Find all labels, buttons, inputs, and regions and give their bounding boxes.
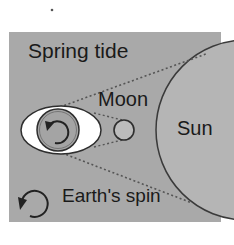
earth-spin-label: Earth's spin xyxy=(62,185,161,206)
moon-label: Moon xyxy=(98,88,148,110)
earth-body xyxy=(37,109,79,151)
moon-body xyxy=(114,120,134,140)
sun-label: Sun xyxy=(177,117,213,139)
diagram-title: Spring tide xyxy=(28,39,128,62)
stray-mark xyxy=(51,9,54,12)
spring-tide-diagram: Spring tide Moon Sun Earth's spin xyxy=(0,0,234,245)
